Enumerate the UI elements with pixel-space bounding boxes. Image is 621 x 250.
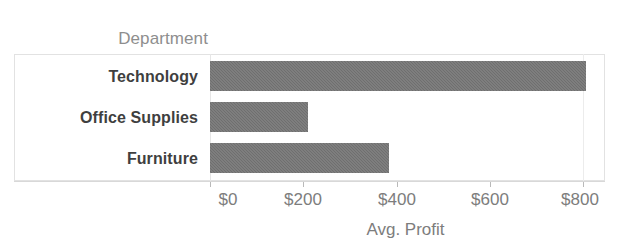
x-axis-tick-mark: [583, 182, 584, 187]
bar-chart: Department Technology Office Supplies Fu…: [0, 0, 621, 250]
x-axis-tick-mark: [490, 182, 491, 187]
table-row[interactable]: Office Supplies: [0, 96, 621, 138]
x-axis-tick-label: $800: [561, 189, 599, 210]
table-row[interactable]: Furniture: [0, 137, 621, 179]
x-axis-tick-mark: [397, 182, 398, 187]
bar-technology[interactable]: [210, 61, 586, 91]
category-label-furniture[interactable]: Furniture: [0, 149, 198, 168]
category-label-technology[interactable]: Technology: [0, 67, 198, 86]
x-axis-tick-label: $0: [219, 189, 238, 210]
x-axis-tick-label: $200: [284, 189, 322, 210]
row-field-header-department[interactable]: Department: [0, 29, 208, 49]
x-axis-tick-mark: [210, 182, 211, 187]
x-axis-tick-label: $600: [471, 189, 509, 210]
x-axis-tick-mark: [303, 182, 304, 187]
bar-furniture[interactable]: [210, 143, 389, 173]
category-label-office-supplies[interactable]: Office Supplies: [0, 108, 198, 127]
x-axis-line: [14, 181, 605, 182]
x-axis-title-wrapper: Avg. Profit: [0, 219, 621, 240]
bar-office-supplies[interactable]: [210, 102, 308, 132]
x-axis-tick-label: $400: [378, 189, 416, 210]
table-row[interactable]: Technology: [0, 55, 621, 97]
x-axis-title[interactable]: Avg. Profit: [366, 219, 444, 240]
